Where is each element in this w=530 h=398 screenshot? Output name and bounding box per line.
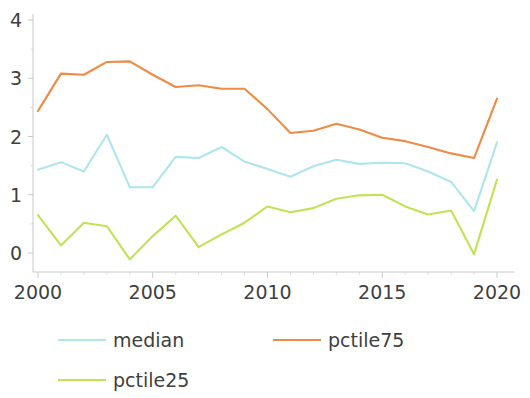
legend-label-median: median xyxy=(113,329,184,351)
y-axis-tick-label: 0 xyxy=(10,242,22,264)
x-axis-tick-label: 2000 xyxy=(14,281,62,303)
chart-legend: medianpctile75pctile25 xyxy=(58,329,404,391)
x-axis-tick-label: 2005 xyxy=(129,281,177,303)
x-axis-tick-label: 2010 xyxy=(243,281,291,303)
x-axis-tick-label: 2020 xyxy=(473,281,521,303)
y-axis-tick-label: 3 xyxy=(10,67,22,89)
legend-item-pctile25[interactable]: pctile25 xyxy=(58,369,189,391)
y-axis-tick-group: 01234 xyxy=(10,9,33,264)
x-axis-tick-group: 20002005201020152020 xyxy=(14,272,521,303)
series-line-pctile75 xyxy=(38,61,497,158)
legend-label-pctile75: pctile75 xyxy=(328,329,404,351)
legend-item-pctile75[interactable]: pctile75 xyxy=(273,329,404,351)
y-axis-tick-label: 4 xyxy=(10,9,22,31)
legend-label-pctile25: pctile25 xyxy=(113,369,189,391)
y-axis-tick-label: 2 xyxy=(10,126,22,148)
y-axis-tick-label: 1 xyxy=(10,184,22,206)
x-axis-tick-label: 2015 xyxy=(358,281,406,303)
chart-container: 01234 20002005201020152020 medianpctile7… xyxy=(0,0,530,398)
line-chart: 01234 20002005201020152020 medianpctile7… xyxy=(0,0,530,398)
legend-item-median[interactable]: median xyxy=(58,329,184,351)
series-line-pctile25 xyxy=(38,180,497,260)
data-series-group xyxy=(38,61,497,259)
